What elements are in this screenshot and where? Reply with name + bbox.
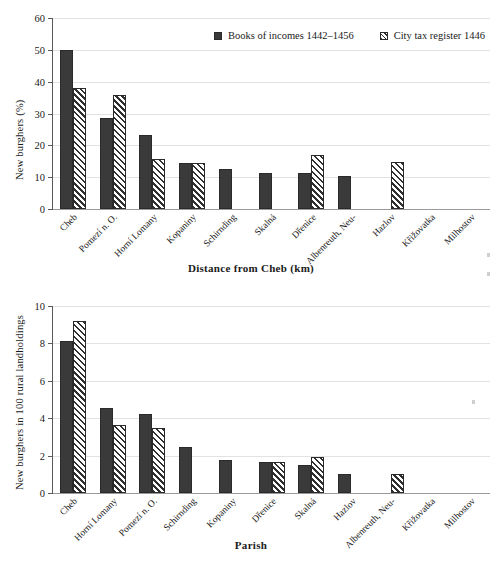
bar-books-of-incomes [298,465,311,493]
bar-city-tax-register [113,95,126,209]
y-axis-tick [48,343,53,344]
bar-city-tax-register [272,462,285,493]
y-tick-label: 20 [35,140,46,151]
chart-parish: New burghers in 100 rural landholdings B… [0,288,502,564]
x-tick-label: Kopaniny [205,496,239,530]
bar-groups-top [53,18,490,209]
bar-group [172,306,212,493]
y-axis-tick [48,177,53,178]
bar-group [411,306,451,493]
x-tick-label: Hazlov [371,212,397,238]
bar-books-of-incomes [219,460,232,493]
plot-frame-top: 0102030405060 [52,18,490,210]
bar-books-of-incomes [100,408,113,493]
bar-group [252,306,292,493]
y-tick-label: 40 [35,76,46,87]
y-axis-tick [48,493,53,494]
bar-books-of-incomes [179,447,192,493]
y-tick-label: 8 [40,338,45,349]
bar-city-tax-register [152,428,165,493]
bar-group [252,18,292,209]
bar-group [331,306,371,493]
chart-distance-from-cheb: New burghers (%) Books of incomes 1442–1… [0,0,502,288]
y-axis-tick [48,381,53,382]
bar-group [212,18,252,209]
bar-group [172,18,212,209]
bar-books-of-incomes [219,169,232,209]
bar-books-of-incomes [139,414,152,493]
scan-speck [487,253,490,257]
bar-books-of-incomes [100,118,113,209]
bar-group [132,18,172,209]
x-tick-label: Cheb [58,212,79,233]
bar-books-of-incomes [338,176,351,209]
y-axis-title-top: New burghers (%) [14,99,25,180]
bar-group [411,18,451,209]
y-tick-label: 60 [35,13,46,24]
y-tick-label: 30 [35,108,46,119]
x-tick-label: Schirnding [202,212,239,249]
x-tick-label: Křižovatka [400,212,437,249]
bar-group [331,18,371,209]
x-tick-label: Křižovatka [400,496,437,533]
x-tick-label: Pomezí n. O. [77,212,119,254]
y-tick-label: 4 [40,413,45,424]
y-axis-tick [48,418,53,419]
bar-books-of-incomes [259,462,272,493]
y-tick-label: 2 [40,450,45,461]
bar-city-tax-register [73,88,86,209]
x-tick-label: Milhostov [442,496,477,531]
y-axis-title-bottom: New burghers in 100 rural landholdings [14,315,25,490]
bar-books-of-incomes [338,474,351,493]
bar-city-tax-register [391,162,404,209]
y-axis-tick [48,456,53,457]
scan-speck [487,272,490,276]
bar-group [53,18,93,209]
bar-group [132,306,172,493]
x-tick-label: Hazlov [331,496,357,522]
x-axis-title-bottom: Parish [0,539,502,551]
bar-books-of-incomes [60,341,73,493]
x-tick-label: Dřenice [250,496,278,524]
x-tick-label: Kopaniny [165,212,199,246]
bar-books-of-incomes [179,163,192,209]
bar-books-of-incomes [298,173,311,209]
bar-city-tax-register [311,457,324,493]
y-axis-tick [48,50,53,51]
y-axis-tick [48,306,53,307]
plot-area-bottom: 0246810 [52,306,490,494]
x-tick-label: Cheb [58,496,79,517]
bar-city-tax-register [152,159,165,209]
bar-city-tax-register [311,155,324,209]
plot-frame-bottom: 0246810 [52,306,490,494]
x-tick-label: Skalná [293,496,318,521]
bar-books-of-incomes [60,50,73,209]
y-tick-label: 50 [35,44,46,55]
y-tick-label: 6 [40,375,45,386]
y-tick-label: 10 [35,301,46,312]
bar-books-of-incomes [139,135,152,209]
y-axis-tick [48,18,53,19]
bar-city-tax-register [192,163,205,209]
bar-group [212,306,252,493]
bar-group [93,18,133,209]
bar-group [291,306,331,493]
bar-group [371,306,411,493]
bar-group [450,18,490,209]
x-tick-label: Dřenice [290,212,318,240]
x-tick-label: Schirnding [162,496,199,533]
y-axis-tick [48,145,53,146]
y-axis-tick [48,114,53,115]
bar-group [291,18,331,209]
plot-area-top: 0102030405060 [52,18,490,210]
y-tick-label: 0 [40,204,45,215]
bar-groups-bottom [53,306,490,493]
figure-page: New burghers (%) Books of incomes 1442–1… [0,0,502,564]
y-tick-label: 10 [35,172,46,183]
bar-group [450,306,490,493]
x-tick-label: Milhostov [442,212,477,247]
x-axis-title-top: Distance from Cheb (km) [0,262,502,274]
bar-city-tax-register [391,474,404,493]
bar-city-tax-register [73,321,86,493]
bar-city-tax-register [113,425,126,493]
